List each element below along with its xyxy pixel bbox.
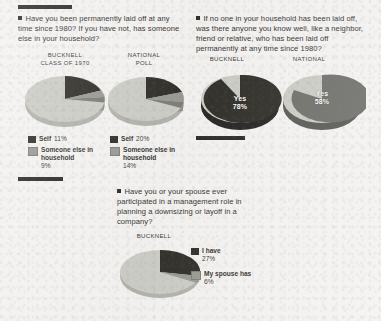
pie-label-national-yes: Yes 58%	[296, 90, 348, 107]
legend-bucknell-1970: Self11% Someone else in household 9%	[28, 135, 103, 173]
legend-label: Someone else in household 9%	[41, 146, 103, 170]
pie-chart-bucknell-1970	[19, 68, 111, 130]
question-text-bottom: Have you or your spouse ever participate…	[117, 187, 263, 227]
infographic-page: Have you been permanently laid off at an…	[0, 0, 381, 321]
question-block-top-left: Have you been permanently laid off at an…	[18, 14, 181, 44]
legend-swatch-i-have-icon	[191, 248, 199, 256]
legend-bucknell-management: I have 27% My spouse has 6%	[191, 247, 281, 289]
chart-title-bucknell-1970: BUCKNELL CLASS OF 1970	[22, 52, 108, 67]
legend-label: I have 27%	[202, 247, 221, 263]
legend-row: Someone else in household 14%	[110, 146, 185, 170]
question-text-top-right: If no one in your household has been lai…	[196, 14, 366, 54]
rule-top-left	[18, 5, 72, 9]
question-block-top-right: If no one in your household has been lai…	[196, 14, 366, 54]
rule-bottom-left-panel	[18, 177, 63, 181]
legend-label: Someone else in household 14%	[123, 146, 185, 170]
question-text-top-left: Have you been permanently laid off at an…	[18, 14, 181, 44]
legend-swatch-self-icon	[28, 136, 36, 144]
legend-swatch-self-icon	[110, 136, 118, 144]
legend-swatch-someone-else-icon	[110, 147, 120, 157]
legend-label: Self11%	[39, 135, 67, 143]
legend-row: Someone else in household 9%	[28, 146, 103, 170]
pie-label-bucknell-yes: Yes 78%	[208, 95, 272, 112]
square-bullet-icon	[117, 189, 121, 193]
legend-row: I have 27%	[191, 247, 281, 263]
chart-title-national-poll: NATIONAL POLL	[104, 52, 184, 67]
pie-chart-national-poll	[102, 68, 190, 130]
legend-swatch-my-spouse-has-icon	[191, 271, 201, 281]
question-block-bottom: Have you or your spouse ever participate…	[117, 187, 263, 227]
square-bullet-icon	[196, 16, 200, 20]
legend-label: My spouse has 6%	[204, 270, 251, 286]
legend-row: My spouse has 6%	[191, 270, 281, 286]
legend-national-poll: Self20% Someone else in household 14%	[110, 135, 185, 173]
chart-title-bucknell-known-person: BUCKNELL	[198, 56, 256, 64]
chart-title-national-known-person: NATIONAL	[280, 56, 338, 64]
legend-swatch-someone-else-icon	[28, 147, 38, 157]
rule-bottom-right-panel	[196, 136, 245, 140]
legend-row: Self20%	[110, 135, 185, 143]
chart-title-bucknell-management: BUCKNELL	[123, 233, 185, 241]
legend-label: Self20%	[121, 135, 149, 143]
square-bullet-icon	[18, 16, 22, 20]
legend-row: Self11%	[28, 135, 103, 143]
